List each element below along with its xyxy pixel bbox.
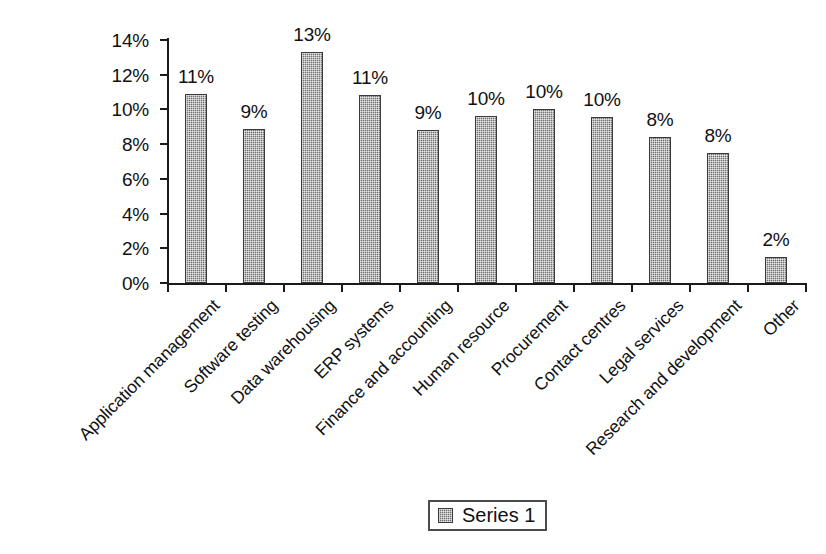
bar-value-label: 11% bbox=[178, 67, 214, 86]
bar-value-label: 10% bbox=[525, 82, 562, 101]
y-axis-tick bbox=[160, 39, 167, 41]
y-axis-tick-label: 12% bbox=[0, 65, 149, 84]
y-axis-tick-label: 10% bbox=[0, 100, 149, 119]
y-axis-tick-label: 2% bbox=[0, 239, 149, 258]
y-axis-tick-label: 4% bbox=[0, 204, 149, 223]
y-axis-tick bbox=[160, 143, 167, 145]
y-axis-tick bbox=[160, 178, 167, 180]
bar-value-label: 10% bbox=[467, 89, 504, 108]
y-axis-tick bbox=[160, 213, 167, 215]
bar bbox=[185, 94, 206, 283]
x-axis-category-label: Data warehousing bbox=[227, 296, 338, 407]
y-axis-tick bbox=[160, 282, 167, 284]
y-axis-tick-label: 0% bbox=[0, 274, 149, 293]
series-1-swatch bbox=[438, 508, 453, 523]
y-axis-tick bbox=[160, 247, 167, 249]
y-axis-tick-label: 14% bbox=[0, 31, 149, 50]
chart-legend: Series 1 bbox=[428, 500, 547, 531]
bar-value-label: 9% bbox=[414, 103, 441, 122]
x-axis-tick bbox=[167, 283, 169, 292]
y-axis-tick bbox=[160, 108, 167, 110]
bar-value-label: 13% bbox=[293, 25, 330, 44]
bar-value-label: 10% bbox=[583, 90, 620, 109]
bar-value-label: 11% bbox=[352, 68, 388, 87]
legend-item-label: Series 1 bbox=[462, 505, 535, 525]
y-axis-tick-label: 6% bbox=[0, 169, 149, 188]
bar-chart: 0%2%4%6%8%10%12%14% 11%9%13%11%9%10%10%1… bbox=[0, 0, 826, 554]
bar-value-label: 8% bbox=[646, 110, 673, 129]
y-axis-tick bbox=[160, 74, 167, 76]
bar-value-label: 8% bbox=[704, 126, 731, 145]
bar-value-label: 9% bbox=[240, 102, 267, 121]
y-axis-tick-label: 8% bbox=[0, 135, 149, 154]
x-axis-category-label: Other bbox=[759, 296, 802, 339]
